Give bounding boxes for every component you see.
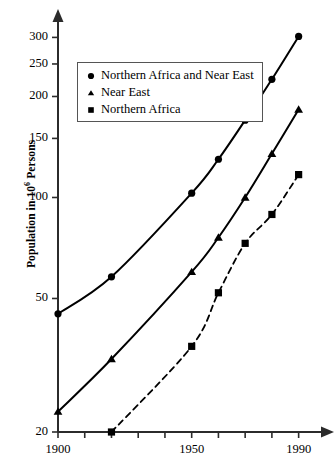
legend-item-northern-africa: Northern Africa	[84, 101, 256, 118]
data-point-circle	[268, 76, 275, 83]
x-axis-arrow	[321, 427, 334, 438]
legend-item-northern-africa-and-near-east: Northern Africa and Near East	[84, 67, 256, 84]
chart-figure: Population in 106 Persons 20501001502002…	[0, 0, 336, 464]
data-point-circle	[295, 33, 302, 40]
x-axis-tick-label: 1990	[269, 442, 329, 457]
data-point-triangle	[294, 105, 303, 112]
data-point-square	[242, 240, 249, 247]
x-axis-tick-label: 1950	[162, 442, 222, 457]
y-axis-tick-label: 100	[10, 189, 48, 204]
y-axis-tick-label: 200	[10, 88, 48, 103]
series-near-east	[54, 105, 303, 415]
data-point-square	[215, 289, 222, 296]
y-axis-tick-label: 20	[10, 424, 48, 439]
data-point-circle	[108, 273, 115, 280]
y-axis-tick-label: 150	[10, 130, 48, 145]
y-axis-tick-label: 300	[10, 29, 48, 44]
data-point-square	[108, 428, 115, 435]
data-point-square	[188, 343, 195, 350]
legend-label: Near East	[98, 85, 150, 100]
data-point-square	[295, 171, 302, 178]
y-axis-arrow	[53, 9, 64, 22]
data-point-circle	[188, 190, 195, 197]
data-point-circle	[54, 310, 61, 317]
legend-label: Northern Africa and Near East	[98, 68, 254, 83]
series-line	[58, 109, 299, 411]
data-point-triangle	[267, 150, 276, 157]
square-marker-icon	[84, 105, 98, 115]
chart-legend: Northern Africa and Near East Near East …	[77, 62, 263, 122]
legend-label: Northern Africa	[98, 102, 180, 117]
x-axis-tick-label: 1900	[28, 442, 88, 457]
data-point-square	[268, 211, 275, 218]
circle-marker-icon	[84, 71, 98, 81]
legend-item-near-east: Near East	[84, 84, 256, 101]
data-point-circle	[215, 156, 222, 163]
y-axis-tick-label: 250	[10, 56, 48, 71]
series-northern-africa	[108, 171, 302, 436]
y-axis-tick-label: 50	[10, 290, 48, 305]
triangle-marker-icon	[84, 88, 98, 98]
